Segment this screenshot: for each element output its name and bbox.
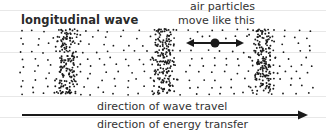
wave-travel-label: direction of wave travel (97, 100, 227, 113)
energy-transfer-label: direction of energy transfer (97, 118, 248, 131)
longitudinal-wave-particles (0, 0, 326, 134)
